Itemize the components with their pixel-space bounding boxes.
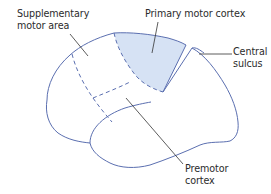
- premotor-label-line1: Premotor: [185, 163, 228, 175]
- brain-outline-left: [46, 100, 90, 143]
- central-sulcus-label: Central sulcus: [233, 46, 267, 70]
- brain-outline-top: [47, 33, 114, 100]
- supplementary-label-line1: Supplementary: [17, 8, 89, 20]
- premotor-boundary-dashed: [93, 82, 130, 98]
- premotor-leader-line: [126, 98, 183, 164]
- sma-boundary-dashed: [72, 54, 112, 122]
- supplementary-label-line2: motor area: [17, 20, 89, 32]
- temporal-lobe-outline: [90, 102, 151, 163]
- premotor-cortex-label: Premotor cortex: [185, 163, 228, 187]
- primary-motor-cortex-region: [114, 33, 186, 92]
- supplementary-motor-area-label: Supplementary motor area: [17, 8, 89, 32]
- central-label-line2: sulcus: [233, 58, 267, 70]
- central-label-line1: Central: [233, 46, 267, 58]
- primary-label-line1: Primary motor cortex: [145, 8, 245, 20]
- premotor-label-line2: cortex: [185, 175, 228, 187]
- primary-motor-cortex-label: Primary motor cortex: [145, 8, 245, 20]
